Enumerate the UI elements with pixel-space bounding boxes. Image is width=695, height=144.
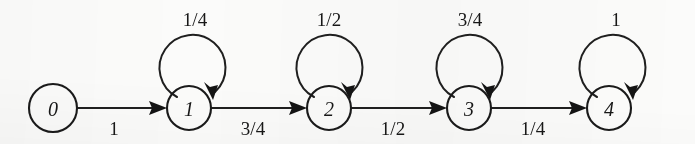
- self-loop-node-1: [159, 35, 225, 100]
- state-node-0[interactable]: 0: [29, 84, 77, 132]
- state-diagram-figure: 0 1 2 3 4 1 3/4 1/2 1/4: [0, 0, 695, 144]
- transition-label-2-to-3: 1/2: [381, 118, 405, 139]
- state-node-3[interactable]: 3: [447, 86, 491, 130]
- diagram-canvas: 0 1 2 3 4 1 3/4 1/2 1/4: [0, 0, 695, 144]
- transition-label-1-to-2: 3/4: [241, 118, 266, 139]
- state-node-3-label: 3: [463, 98, 474, 120]
- transition-labels: 1 3/4 1/2 1/4: [109, 118, 545, 139]
- self-loop-node-3: [436, 35, 502, 100]
- self-loop-node-1-arrowhead: [204, 82, 218, 100]
- state-node-4-label: 4: [604, 98, 614, 120]
- edge-0-to-1: [77, 101, 167, 115]
- self-loops: [159, 35, 645, 100]
- edge-3-to-4: [491, 101, 587, 115]
- state-node-0-label: 0: [48, 98, 58, 120]
- self-loop-labels: 1/4 1/2 3/4 1: [183, 9, 621, 30]
- state-node-1[interactable]: 1: [167, 86, 211, 130]
- self-loop-label-node-3: 3/4: [458, 9, 483, 30]
- self-loop-node-2: [296, 35, 362, 100]
- state-node-4[interactable]: 4: [587, 86, 631, 130]
- transition-label-3-to-4: 1/4: [521, 118, 546, 139]
- self-loop-label-node-2: 1/2: [317, 9, 341, 30]
- state-node-2[interactable]: 2: [307, 86, 351, 130]
- edge-1-to-2: [211, 101, 307, 115]
- state-node-1-label: 1: [184, 98, 194, 120]
- edge-2-to-3: [351, 101, 447, 115]
- self-loop-label-node-1: 1/4: [183, 9, 208, 30]
- transition-label-0-to-1: 1: [109, 118, 119, 139]
- self-loop-label-node-4: 1: [611, 9, 621, 30]
- state-node-2-label: 2: [324, 98, 334, 120]
- self-loop-node-4: [579, 35, 645, 100]
- self-loop-node-4-arrowhead: [624, 82, 638, 100]
